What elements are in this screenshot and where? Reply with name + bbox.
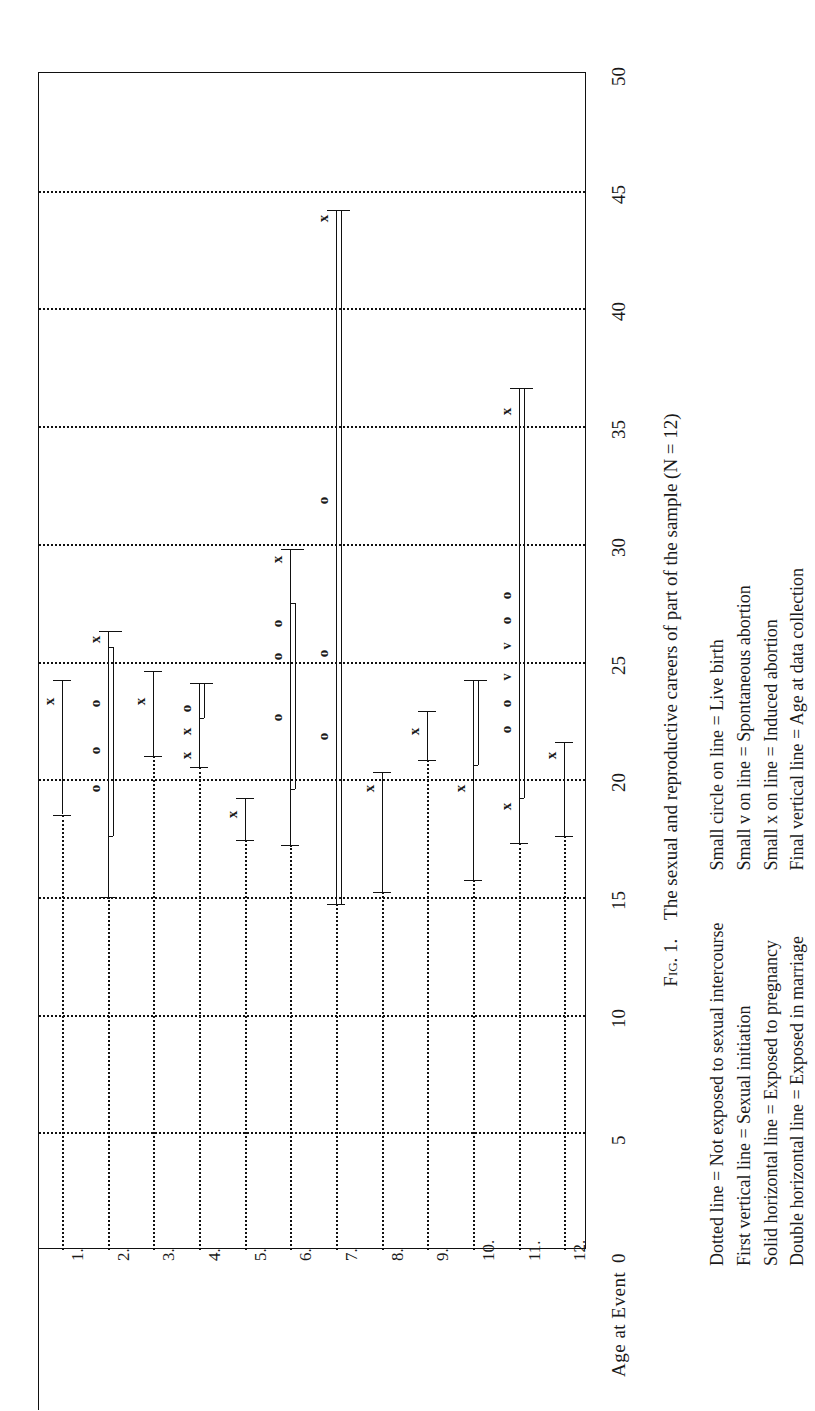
plot-area: xoooxxxxoxoooxoooxxxxxoovvooxx bbox=[38, 72, 586, 1249]
legend-item-right-4: Final vertical line = Age at data collec… bbox=[786, 568, 810, 871]
age-tick-45: 45 bbox=[608, 185, 630, 204]
legend-item-right-2: Small v on line = Spontaneous abortion bbox=[733, 568, 757, 871]
legend: Dotted line = Not exposed to sexual inte… bbox=[706, 110, 810, 1290]
case-label-5: 5. bbox=[251, 1248, 271, 1261]
legend-item-left-2: First vertical line = Sexual initiation bbox=[733, 922, 757, 1266]
case-series-12: x bbox=[39, 73, 585, 1248]
legend-item-right-3: Small x on line = Induced abortion bbox=[760, 568, 784, 871]
figure-caption-text: The sexual and reproductive careers of p… bbox=[660, 413, 681, 920]
age-tick-15: 15 bbox=[608, 891, 630, 910]
case-label-8: 8. bbox=[388, 1248, 408, 1261]
legend-column-left: Dotted line = Not exposed to sexual inte… bbox=[706, 922, 810, 1266]
case-label-3: 3. bbox=[159, 1248, 179, 1261]
age-tick-30: 30 bbox=[608, 538, 630, 557]
age-tick-0: 0 bbox=[608, 1254, 630, 1264]
legend-item-left-4: Double horizontal line = Exposed in marr… bbox=[786, 922, 810, 1266]
case-label-7: 7. bbox=[342, 1248, 362, 1261]
age-tick-40: 40 bbox=[608, 302, 630, 321]
age-tick-25: 25 bbox=[608, 656, 630, 675]
figure-caption: Fig. 1. The sexual and reproductive care… bbox=[660, 110, 682, 1290]
legend-item-left-3: Solid horizontal line = Exposed to pregn… bbox=[760, 922, 784, 1266]
case-label-2: 2. bbox=[114, 1248, 134, 1261]
legend-column-right: Small circle on line = Live birthSmall v… bbox=[706, 568, 810, 871]
sexual-initiation-cap bbox=[555, 836, 573, 837]
case-label-4: 4. bbox=[205, 1248, 225, 1261]
case-label-9: 9. bbox=[433, 1248, 453, 1261]
legend-item-left-1: Dotted line = Not exposed to sexual inte… bbox=[706, 922, 730, 1266]
case-label-6: 6. bbox=[296, 1248, 316, 1261]
legend-item-right-1: Small circle on line = Live birth bbox=[706, 568, 730, 871]
age-at-data-collection-cap bbox=[555, 742, 573, 743]
age-tick-35: 35 bbox=[608, 420, 630, 439]
case-label-11: 11. bbox=[525, 1240, 545, 1261]
age-tick-20: 20 bbox=[608, 773, 630, 792]
case-label-10: 10. bbox=[479, 1240, 499, 1261]
not-exposed-dotted-line bbox=[564, 836, 566, 1250]
case-label-1: 1. bbox=[68, 1248, 88, 1261]
axis-title-age-at-event: Age at Event bbox=[608, 1272, 630, 1377]
age-tick-50: 50 bbox=[608, 67, 630, 86]
marker-x-icon: x bbox=[544, 751, 559, 759]
caption-and-legend: Fig. 1. The sexual and reproductive care… bbox=[660, 110, 810, 1290]
age-tick-5: 5 bbox=[608, 1136, 630, 1146]
case-label-12: 12. bbox=[570, 1240, 590, 1261]
age-tick-10: 10 bbox=[608, 1009, 630, 1028]
figure-root: xoooxxxxoxoooxoooxxxxxoovvooxx 1.2.3.4.5… bbox=[0, 0, 815, 1411]
figure-number: Fig. 1. bbox=[660, 939, 681, 987]
exposed-to-pregnancy-line bbox=[564, 742, 565, 836]
